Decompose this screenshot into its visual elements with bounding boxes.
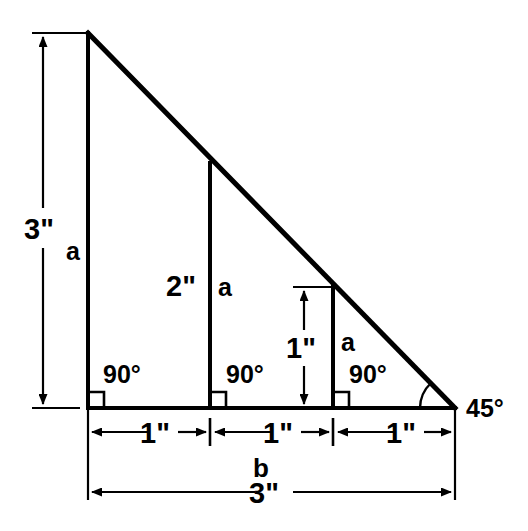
label-angle-90-2: 90° [226, 360, 264, 388]
label-seg-3: 1" [386, 417, 416, 449]
label-height-total: 3" [24, 213, 54, 245]
dimension-height-total: 3" [24, 33, 88, 408]
label-height-mid: 2" [166, 270, 196, 302]
label-leg-a-left: a [66, 237, 81, 265]
angle-arc-45 [420, 383, 431, 408]
right-angle-square-2 [210, 392, 226, 408]
right-angle-square-1 [88, 392, 104, 408]
label-leg-a-mid: a [218, 273, 233, 301]
dimension-height-small: 1" [286, 287, 333, 404]
diagram-canvas: 3" 1" 2" a a a 90° 90° 90° 45° [0, 0, 528, 531]
triangle-hypotenuse [88, 33, 455, 408]
triangle-outline [88, 33, 455, 408]
label-base-total: 3" [249, 477, 279, 509]
label-angle-45: 45° [466, 394, 504, 422]
label-seg-1: 1" [140, 417, 170, 449]
label-angle-90-1: 90° [103, 360, 141, 388]
dimension-base-total: 3" [92, 477, 451, 509]
right-angle-square-3 [333, 392, 349, 408]
label-height-small: 1" [286, 332, 316, 364]
geometry-diagram: 3" 1" 2" a a a 90° 90° 90° 45° [0, 0, 528, 531]
label-seg-2: 1" [263, 417, 293, 449]
right-angle-markers [88, 392, 349, 408]
label-leg-a-small: a [341, 328, 356, 356]
dimension-base-segments: 1" 1" 1" [92, 417, 451, 449]
label-angle-90-3: 90° [349, 360, 387, 388]
